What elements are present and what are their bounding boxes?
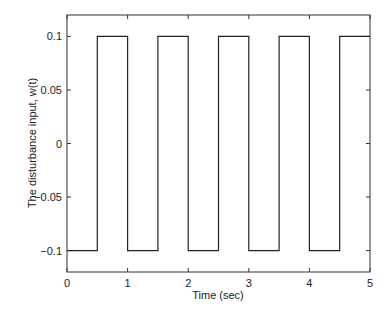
chart-figure: 0123450.10.050−0.05−0.1 Time (sec) The d… (0, 0, 392, 317)
square-wave-line (67, 36, 370, 250)
x-tick-label: 3 (246, 277, 252, 289)
y-tick-label: −0.1 (40, 245, 62, 257)
axis-ticks: 0123450.10.050−0.05−0.1 (34, 15, 373, 289)
y-axis-label: The disturbance input, w(t) (26, 78, 38, 208)
y-tick-label: 0 (56, 138, 62, 150)
plot-canvas: 0123450.10.050−0.05−0.1 Time (sec) The d… (0, 0, 392, 317)
x-tick-label: 4 (306, 277, 312, 289)
x-tick-label: 1 (125, 277, 131, 289)
x-tick-label: 5 (367, 277, 373, 289)
x-tick-label: 2 (185, 277, 191, 289)
x-axis-label: Time (sec) (192, 289, 244, 301)
y-tick-label: 0.1 (47, 30, 62, 42)
x-tick-label: 0 (64, 277, 70, 289)
y-tick-label: −0.05 (34, 191, 62, 203)
y-tick-label: 0.05 (41, 84, 62, 96)
data-series (67, 36, 370, 250)
